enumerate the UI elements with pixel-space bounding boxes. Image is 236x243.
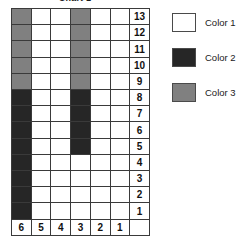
grid-cell-c2-r3 <box>90 171 110 187</box>
row-axis-label: 11 <box>130 41 150 57</box>
grid-cell-c3-r4 <box>71 154 91 170</box>
grid-cell-c6-r11 <box>12 41 32 57</box>
grid-cell-c4-r4 <box>51 154 71 170</box>
grid-cell-c2-r9 <box>90 73 110 89</box>
grid-cell-c4-r5 <box>51 138 71 154</box>
grid-cell-c2-r12 <box>90 25 110 41</box>
grid-cell-c1-r9 <box>110 73 130 89</box>
grid-cell-c2-r11 <box>90 41 110 57</box>
row-axis-label: 3 <box>130 171 150 187</box>
row-axis-label: 13 <box>130 9 150 25</box>
grid-cell-c6-r9 <box>12 73 32 89</box>
grid-cell-c6-r4 <box>12 154 32 170</box>
grid-row: 4 <box>12 154 150 170</box>
grid-row: 9 <box>12 73 150 89</box>
grid-cell-c6-r13 <box>12 9 32 25</box>
grid-row: 8 <box>12 90 150 106</box>
grid-cell-c2-r8 <box>90 90 110 106</box>
grid-cell-c1-r7 <box>110 106 130 122</box>
row-axis-label: 5 <box>130 138 150 154</box>
grid-cell-c4-r11 <box>51 41 71 57</box>
grid-cell-c4-r12 <box>51 25 71 41</box>
grid-cell-c6-r12 <box>12 25 32 41</box>
grid-cell-c4-r7 <box>51 106 71 122</box>
grid-cell-c3-r2 <box>71 187 91 203</box>
axis-corner <box>130 219 150 235</box>
grid-cell-c5-r12 <box>31 25 51 41</box>
chart-title: Chart 1 <box>0 0 150 2</box>
grid-row: 13 <box>12 9 150 25</box>
grid-cell-c1-r3 <box>110 171 130 187</box>
grid-cell-c5-r1 <box>31 203 51 219</box>
grid-cell-c4-r6 <box>51 122 71 138</box>
grid-cell-c3-r7 <box>71 106 91 122</box>
grid-cell-c4-r13 <box>51 9 71 25</box>
grid-cell-c5-r13 <box>31 9 51 25</box>
legend-swatch-icon <box>172 83 196 102</box>
grid-cell-c5-r7 <box>31 106 51 122</box>
grid-cell-c2-r2 <box>90 187 110 203</box>
legend-item-label: Color 1 <box>205 17 236 28</box>
legend-item-c1[interactable]: Color 1 <box>172 12 236 33</box>
column-axis-label: 6 <box>12 219 32 235</box>
legend-item-c2[interactable]: Color 2 <box>172 47 236 68</box>
grid-cell-c1-r1 <box>110 203 130 219</box>
grid-cell-c2-r7 <box>90 106 110 122</box>
grid-cell-c5-r6 <box>31 122 51 138</box>
grid-row: 5 <box>12 138 150 154</box>
row-axis-label: 4 <box>130 154 150 170</box>
grid-cell-c6-r5 <box>12 138 32 154</box>
legend-item-label: Color 2 <box>205 52 236 63</box>
grid-cell-c3-r1 <box>71 203 91 219</box>
row-axis-label: 8 <box>130 90 150 106</box>
grid-cell-c3-r10 <box>71 57 91 73</box>
chart-legend: Color 1Color 2Color 3 <box>172 12 236 117</box>
grid-cell-c4-r8 <box>51 90 71 106</box>
column-axis-label: 4 <box>51 219 71 235</box>
grid-cell-c2-r6 <box>90 122 110 138</box>
row-axis-label: 1 <box>130 203 150 219</box>
grid-cell-c1-r8 <box>110 90 130 106</box>
column-axis-label: 3 <box>71 219 91 235</box>
grid-cell-c3-r9 <box>71 73 91 89</box>
grid-cell-c5-r9 <box>31 73 51 89</box>
grid-cell-c3-r3 <box>71 171 91 187</box>
grid-row: 3 <box>12 171 150 187</box>
column-axis-label: 2 <box>90 219 110 235</box>
grid-cell-c6-r1 <box>12 203 32 219</box>
chart-plot-area: 13121110987654321654321 <box>11 8 150 236</box>
grid-cell-c4-r9 <box>51 73 71 89</box>
grid-cell-c4-r3 <box>51 171 71 187</box>
grid-cell-c6-r8 <box>12 90 32 106</box>
column-axis-label: 1 <box>110 219 130 235</box>
grid-cell-c2-r10 <box>90 57 110 73</box>
row-axis-label: 9 <box>130 73 150 89</box>
grid-cell-c1-r5 <box>110 138 130 154</box>
row-axis-label: 12 <box>130 25 150 41</box>
row-axis-label: 7 <box>130 106 150 122</box>
grid-row: 10 <box>12 57 150 73</box>
grid-cell-c3-r12 <box>71 25 91 41</box>
legend-item-label: Color 3 <box>205 87 236 98</box>
stacked-column-grid: 13121110987654321654321 <box>11 8 150 236</box>
grid-cell-c6-r2 <box>12 187 32 203</box>
grid-cell-c5-r11 <box>31 41 51 57</box>
row-axis-label: 10 <box>130 57 150 73</box>
grid-cell-c1-r2 <box>110 187 130 203</box>
row-axis-label: 2 <box>130 187 150 203</box>
grid-cell-c5-r4 <box>31 154 51 170</box>
row-axis-label: 6 <box>130 122 150 138</box>
grid-cell-c6-r7 <box>12 106 32 122</box>
grid-cell-c1-r13 <box>110 9 130 25</box>
grid-cell-c1-r12 <box>110 25 130 41</box>
grid-row: 2 <box>12 187 150 203</box>
grid-cell-c3-r5 <box>71 138 91 154</box>
grid-cell-c5-r2 <box>31 187 51 203</box>
grid-row: 7 <box>12 106 150 122</box>
legend-item-c3[interactable]: Color 3 <box>172 82 236 103</box>
grid-cell-c1-r4 <box>110 154 130 170</box>
grid-cell-c2-r5 <box>90 138 110 154</box>
grid-cell-c6-r3 <box>12 171 32 187</box>
grid-cell-c1-r6 <box>110 122 130 138</box>
grid-row: 1 <box>12 203 150 219</box>
